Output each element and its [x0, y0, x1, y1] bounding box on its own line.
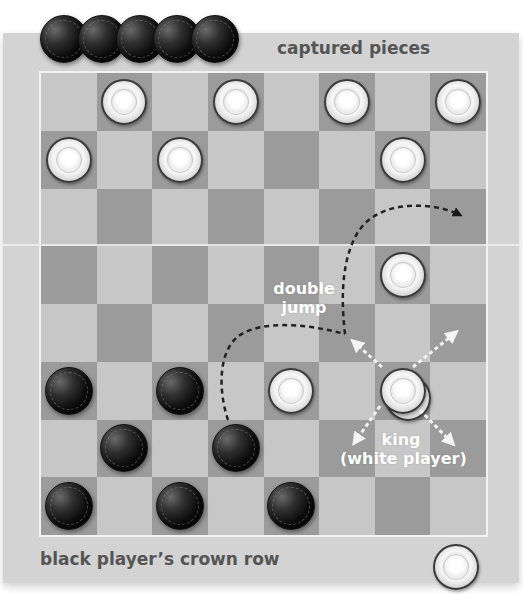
board-square — [319, 131, 375, 189]
white-piece — [324, 79, 370, 125]
board-square — [319, 362, 375, 420]
white-piece — [380, 252, 426, 298]
board-square — [152, 304, 208, 362]
spare-white-piece — [433, 544, 479, 590]
board-square — [41, 246, 97, 304]
black-piece — [156, 482, 204, 530]
board-square — [41, 73, 97, 131]
board-square — [208, 304, 264, 362]
board-square — [41, 189, 97, 247]
white-piece — [46, 137, 92, 183]
board-square — [430, 246, 486, 304]
board-square — [97, 189, 153, 247]
double-jump-label: double jump — [272, 279, 336, 317]
board-square — [264, 73, 320, 131]
white-piece — [157, 137, 203, 183]
board-square — [375, 189, 431, 247]
white-piece — [101, 79, 147, 125]
king-label-line1: king — [340, 430, 462, 449]
black-piece — [45, 367, 93, 415]
board-square — [41, 420, 97, 478]
board-square — [208, 477, 264, 535]
double-jump-label-line1: double — [272, 279, 336, 298]
king-label-line2: (white player) — [340, 449, 462, 468]
black-piece — [212, 424, 260, 472]
board-square — [319, 189, 375, 247]
board-square — [208, 246, 264, 304]
board-square — [152, 246, 208, 304]
white-piece — [435, 79, 481, 125]
board-square — [97, 246, 153, 304]
board-square — [375, 73, 431, 131]
board-square — [97, 304, 153, 362]
board-square — [97, 477, 153, 535]
board-square — [375, 304, 431, 362]
board-square — [41, 304, 97, 362]
board-square — [430, 189, 486, 247]
black-piece — [156, 367, 204, 415]
board-square — [152, 189, 208, 247]
board-square — [208, 189, 264, 247]
board-square — [97, 131, 153, 189]
black-piece — [45, 482, 93, 530]
crown-row-label: black player’s crown row — [40, 549, 280, 569]
board-square — [375, 477, 431, 535]
board-square — [264, 189, 320, 247]
board-square — [430, 362, 486, 420]
white-king-piece — [380, 368, 426, 414]
double-jump-label-line2: jump — [272, 298, 336, 317]
white-piece — [380, 137, 426, 183]
captured-black-piece — [191, 15, 239, 63]
captured-pieces-label: captured pieces — [277, 38, 430, 58]
board-square — [208, 131, 264, 189]
board-square — [97, 362, 153, 420]
king-label: king (white player) — [340, 430, 462, 468]
white-piece — [213, 79, 259, 125]
board-square — [264, 131, 320, 189]
board-square — [430, 131, 486, 189]
board-square — [152, 420, 208, 478]
board-square — [152, 73, 208, 131]
board-square — [319, 477, 375, 535]
board-square — [430, 477, 486, 535]
board-square — [208, 362, 264, 420]
board-fold-line — [0, 244, 523, 246]
white-piece — [268, 368, 314, 414]
board-square — [264, 420, 320, 478]
board-square — [430, 304, 486, 362]
